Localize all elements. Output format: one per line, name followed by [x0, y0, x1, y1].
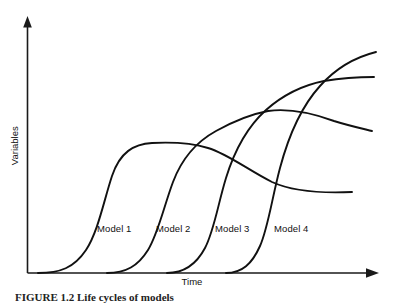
curve-label-model-1: Model 1: [97, 224, 132, 234]
curve-model-4: [226, 52, 376, 273]
curve-label-model-3: Model 3: [215, 224, 250, 234]
figure-caption: FIGURE 1.2 Life cycles of models: [15, 292, 174, 304]
curve-model-1: [38, 143, 352, 273]
line-chart-plot: [0, 0, 393, 304]
curve-label-model-2: Model 2: [156, 224, 191, 234]
x-axis-arrow-icon: [366, 268, 379, 278]
x-axis-label: Time: [170, 277, 214, 287]
curve-model-3: [167, 77, 374, 273]
curve-label-model-4: Model 4: [274, 224, 309, 234]
y-axis-arrow-icon: [23, 16, 32, 28]
figure-container: Model 1 Model 2 Model 3 Model 4 Variable…: [0, 0, 393, 304]
y-axis-label: Variables: [10, 116, 20, 176]
